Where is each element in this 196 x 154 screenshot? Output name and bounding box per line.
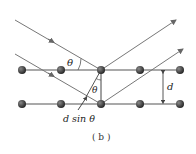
reflected-ray-1: [101, 20, 176, 70]
theta-label-incident: θ: [67, 57, 73, 68]
figure-caption: ( b ): [92, 132, 111, 142]
spacing-label: d: [167, 81, 173, 92]
path-difference-label: d sin θ: [63, 113, 95, 124]
angle-arc-inner: [96, 79, 101, 81]
bragg-diffraction-diagram: θ θ d d sin θ ( b ): [0, 0, 196, 154]
reflected-ray-2: [101, 49, 183, 104]
theta-label-inner: θ: [92, 85, 98, 95]
incident-ray-2: [15, 54, 101, 104]
angle-arc-incident: [78, 59, 81, 71]
incident-ray-1: [15, 20, 101, 70]
